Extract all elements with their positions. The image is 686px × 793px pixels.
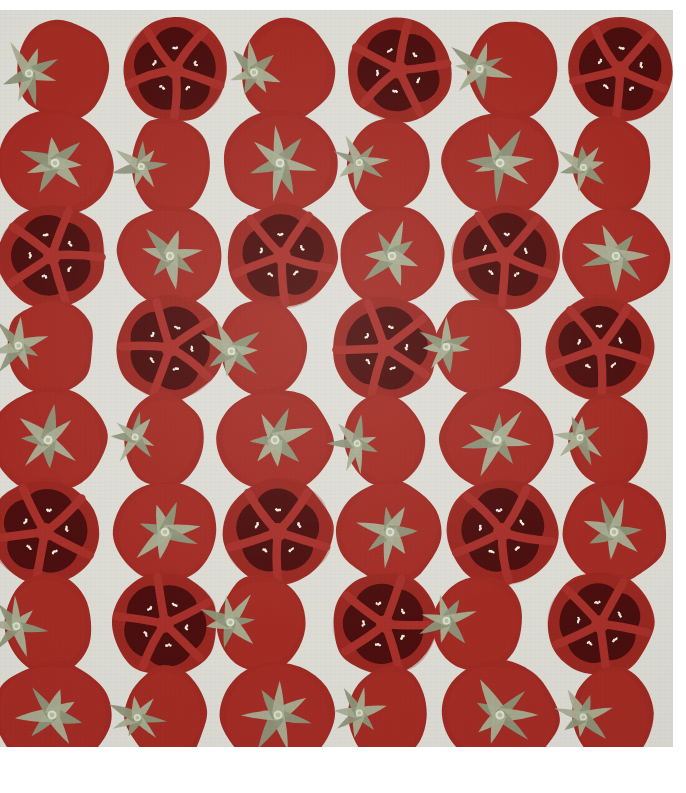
image-canvas bbox=[0, 0, 686, 793]
tomato-whole-top bbox=[217, 660, 338, 747]
tomato-pattern-board bbox=[0, 10, 673, 747]
calyx bbox=[198, 592, 256, 650]
tomato-layer bbox=[0, 10, 673, 747]
tomato-whole-side bbox=[330, 662, 430, 747]
tomato-whole-top bbox=[0, 655, 116, 747]
tomato-side-r7c5 bbox=[554, 649, 670, 747]
tomato-whole-side bbox=[106, 662, 211, 747]
tomato-whole-top bbox=[436, 654, 566, 747]
tomato-whole-side bbox=[552, 664, 658, 747]
tomato-round-r7c2 bbox=[204, 644, 353, 747]
calyx-anchor bbox=[198, 592, 256, 650]
